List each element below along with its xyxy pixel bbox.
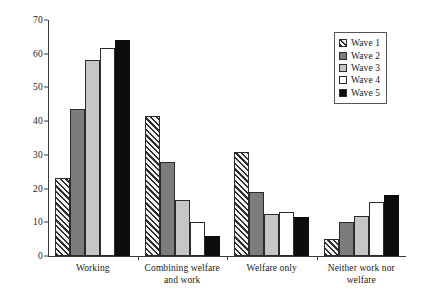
legend-swatch-icon [339,76,347,84]
bar-4[interactable] [190,222,205,256]
bar-1[interactable] [324,239,339,256]
bar-1[interactable] [55,178,70,256]
legend-label: Wave 3 [351,63,380,73]
bar-2[interactable] [249,192,264,256]
bar-3[interactable] [175,200,190,256]
bar-4[interactable] [369,202,384,256]
x-axis-category-label: Neither work nor welfare [317,263,407,286]
x-axis-labels: WorkingCombining welfare and workWelfare… [48,263,406,286]
bar-group [138,20,228,256]
bar-chart-figure: Percent 010203040506070 WorkingCombining… [0,0,434,305]
legend-swatch-icon [339,64,347,72]
bar-group [227,20,317,256]
legend-item[interactable]: Wave 1 [339,37,380,49]
bar-3[interactable] [264,214,279,256]
bar-3[interactable] [85,60,100,256]
bar-5[interactable] [205,236,220,256]
bar-5[interactable] [384,195,399,256]
x-tick-mark [317,256,318,260]
bar-5[interactable] [115,40,130,256]
x-tick-mark [138,256,139,260]
legend-item[interactable]: Wave 2 [339,49,380,61]
bar-4[interactable] [279,212,294,256]
x-axis-category-label: Working [48,263,138,286]
bar-5[interactable] [294,217,309,256]
bar-3[interactable] [354,216,369,256]
x-tick-mark [227,256,228,260]
bar-2[interactable] [339,222,354,256]
legend-item[interactable]: Wave 5 [339,87,380,99]
x-axis-category-label: Welfare only [227,263,317,286]
legend-item[interactable]: Wave 3 [339,62,380,74]
legend-swatch-icon [339,89,347,97]
bar-2[interactable] [160,162,175,256]
legend: Wave 1Wave 2Wave 3Wave 4Wave 5 [334,32,387,104]
legend-item[interactable]: Wave 4 [339,74,380,86]
legend-label: Wave 2 [351,51,380,61]
legend-label: Wave 1 [351,38,380,48]
bar-4[interactable] [100,48,115,256]
bar-2[interactable] [70,109,85,256]
x-axis-category-label: Combining welfare and work [138,263,228,286]
bar-group [48,20,138,256]
bar-1[interactable] [145,116,160,256]
legend-swatch-icon [339,39,347,47]
bar-1[interactable] [234,152,249,256]
legend-label: Wave 4 [351,75,380,85]
legend-swatch-icon [339,52,347,60]
legend-label: Wave 5 [351,88,380,98]
